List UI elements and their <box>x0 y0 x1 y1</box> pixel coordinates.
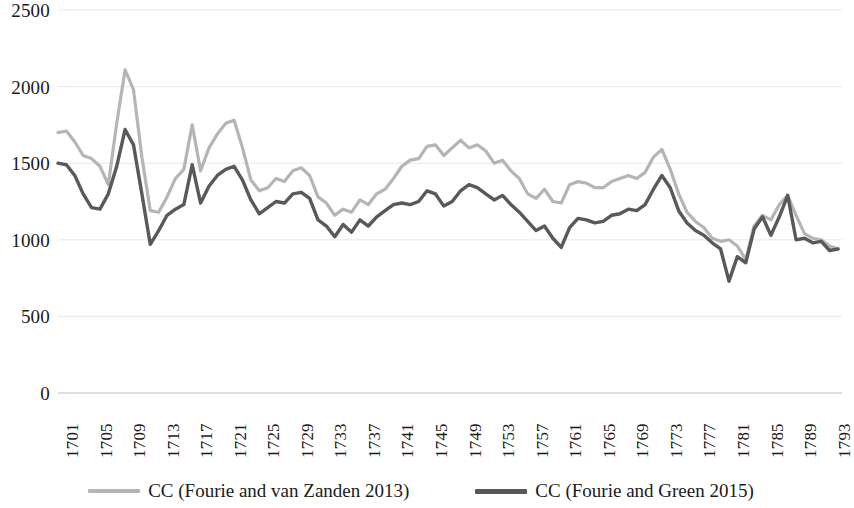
y-tick-label-2: 1500 <box>0 154 50 173</box>
y-tick-label-0: 2500 <box>0 1 50 20</box>
x-tick-label-20: 1781 <box>735 423 752 458</box>
x-tick-label-13: 1753 <box>500 423 517 458</box>
legend-label-1: CC (Fourie and Green 2015) <box>535 481 753 501</box>
x-tick-label-22: 1789 <box>802 423 819 458</box>
x-tick-label-11: 1745 <box>433 423 450 458</box>
x-tick-label-9: 1737 <box>366 423 383 458</box>
x-tick-label-18: 1773 <box>668 423 685 458</box>
legend-item-1[interactable]: CC (Fourie and Green 2015) <box>475 481 753 501</box>
legend-item-0[interactable]: CC (Fourie and van Zanden 2013) <box>88 481 409 501</box>
x-tick-label-8: 1733 <box>332 423 349 458</box>
x-tick-label-6: 1725 <box>265 423 282 458</box>
x-tick-label-2: 1709 <box>131 423 148 458</box>
x-tick-label-5: 1721 <box>232 423 249 458</box>
legend-label-0: CC (Fourie and van Zanden 2013) <box>148 481 409 501</box>
chart-legend: CC (Fourie and van Zanden 2013) CC (Four… <box>0 474 842 508</box>
x-tick-label-16: 1765 <box>601 423 618 458</box>
series-line-0 <box>58 70 838 260</box>
x-tick-label-23: 1793 <box>836 423 853 458</box>
y-tick-label-4: 500 <box>0 307 50 326</box>
legend-swatch-icon-0 <box>88 489 140 493</box>
y-tick-label-1: 2000 <box>0 78 50 97</box>
y-tick-label-5: 0 <box>0 384 50 403</box>
x-tick-label-19: 1777 <box>701 423 718 458</box>
x-tick-label-15: 1761 <box>567 423 584 458</box>
x-tick-label-12: 1749 <box>467 423 484 458</box>
x-tick-label-17: 1769 <box>634 423 651 458</box>
x-tick-label-21: 1785 <box>769 423 786 458</box>
x-tick-label-4: 1717 <box>198 423 215 458</box>
x-tick-label-0: 1701 <box>64 423 81 458</box>
x-tick-label-1: 1705 <box>98 423 115 458</box>
y-tick-label-3: 1000 <box>0 231 50 250</box>
x-tick-label-14: 1757 <box>534 423 551 458</box>
x-tick-label-10: 1741 <box>399 423 416 458</box>
legend-swatch-icon-1 <box>475 489 527 494</box>
series-lines <box>58 70 838 281</box>
x-tick-label-3: 1713 <box>165 423 182 458</box>
x-tick-label-7: 1729 <box>299 423 316 458</box>
